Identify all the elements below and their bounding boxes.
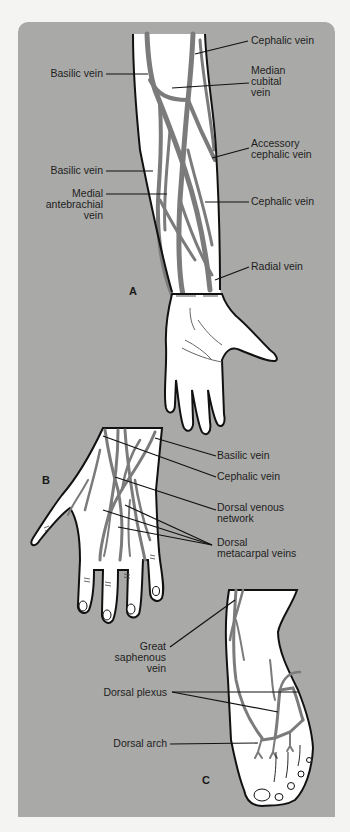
label-dorsal-metacarpal-veins: Dorsal metacarpal veins — [217, 537, 296, 559]
label-median-cubital-vein: Median cubital vein — [251, 65, 285, 98]
label-dorsal-plexus: Dorsal plexus — [85, 687, 167, 698]
hand-illustration — [31, 428, 163, 623]
label-radial-vein: Radial vein — [251, 261, 303, 272]
label-cephalic-vein-lower: Cephalic vein — [251, 196, 314, 207]
panel-label-b: B — [42, 474, 50, 486]
label-accessory-cephalic-vein: Accessory cephalic vein — [251, 138, 312, 160]
label-basilic-vein-hand: Basilic vein — [217, 450, 270, 461]
label-basilic-vein-lower: Basilic vein — [40, 165, 103, 176]
vein-illustration — [0, 0, 350, 832]
label-cephalic-vein-upper: Cephalic vein — [251, 35, 314, 46]
panel-label-a: A — [129, 285, 137, 297]
label-dorsal-arch: Dorsal arch — [85, 738, 167, 749]
label-great-saphenous-vein: Great saphenous vein — [100, 641, 166, 674]
label-cephalic-vein-hand: Cephalic vein — [217, 471, 280, 482]
label-dorsal-venous-network: Dorsal venous network — [217, 502, 284, 524]
label-medial-antebrachial-vein: Medial antebrachial vein — [30, 188, 103, 221]
foot-illustration — [226, 590, 313, 806]
label-basilic-vein-upper: Basilic vein — [40, 68, 103, 79]
panel-label-c: C — [202, 774, 210, 786]
